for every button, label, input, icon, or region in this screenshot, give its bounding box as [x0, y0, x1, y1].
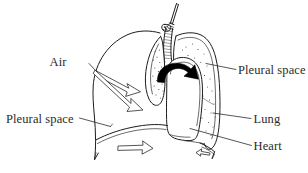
pneumothorax-figure: Air Pleural space Pleural space Lung Hea…	[0, 0, 308, 173]
anatomical-illustration: Air Pleural space Pleural space Lung Hea…	[0, 0, 308, 173]
label-pleural-space-left: Pleural space	[6, 112, 74, 126]
label-heart: Heart	[254, 139, 283, 153]
label-pleural-space-right: Pleural space	[238, 63, 306, 77]
label-lung: Lung	[254, 112, 281, 126]
label-air: Air	[50, 55, 68, 69]
